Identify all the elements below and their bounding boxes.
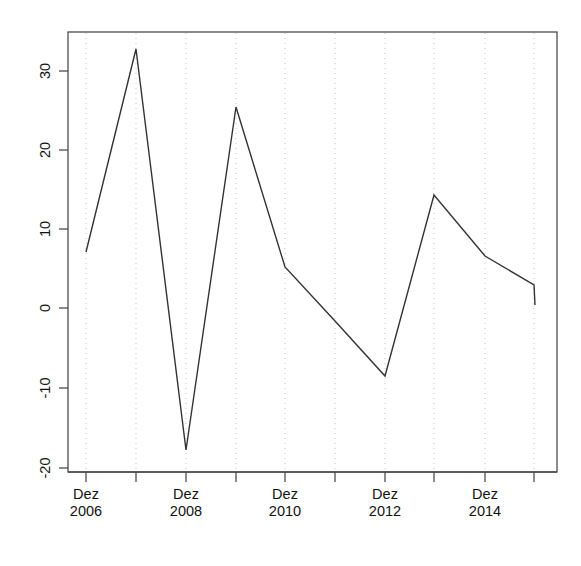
x-tick-label-month: Dez [156,486,216,503]
x-tick-label-year: 2012 [355,503,415,520]
x-tick-label-year: 2006 [56,503,116,520]
x-tick-label-2006: Dez 2006 [56,486,116,520]
y-tick-label-30: 30 [37,63,53,79]
y-tick-label-10: 10 [37,221,53,237]
x-tick-label-month: Dez [255,486,315,503]
x-axis [68,472,557,482]
x-tick-label-year: 2010 [255,503,315,520]
y-tick-label-neg10: -10 [37,378,53,399]
x-tick-label-2010: Dez 2010 [255,486,315,520]
x-tick-label-year: 2014 [455,503,515,520]
y-axis-ticks [59,71,68,468]
y-tick-label-20: 20 [37,142,53,158]
y-tick-label-0: 0 [37,304,53,312]
line-chart-plot: 30 20 10 0 -10 -20 [0,0,581,566]
chart-figure: 30 20 10 0 -10 -20 Dez 2006 Dez [0,0,581,566]
x-tick-label-month: Dez [56,486,116,503]
x-tick-label-2014: Dez 2014 [455,486,515,520]
y-tick-label-neg20: -20 [37,458,53,479]
x-tick-label-year: 2008 [156,503,216,520]
plot-background [68,32,557,472]
y-axis-tick-labels: 30 20 10 0 -10 -20 [37,63,53,479]
x-tick-label-2012: Dez 2012 [355,486,415,520]
x-tick-label-2008: Dez 2008 [156,486,216,520]
x-tick-label-month: Dez [455,486,515,503]
x-tick-label-month: Dez [355,486,415,503]
